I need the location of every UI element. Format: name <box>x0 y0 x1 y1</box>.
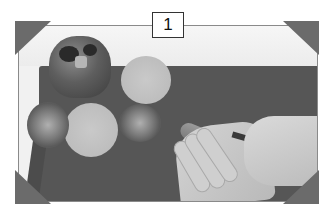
tomato-half <box>27 102 69 148</box>
orange-half <box>121 56 171 104</box>
pepper-cavity <box>83 44 97 56</box>
step-number-label: 1 <box>152 12 184 38</box>
photo-corner-bottom-left <box>15 170 51 204</box>
tomato-half <box>119 104 161 142</box>
photo-corner-bottom-right <box>283 170 319 204</box>
instruction-photo <box>18 25 318 202</box>
photo-corner-top-left <box>15 21 51 55</box>
bell-pepper-half <box>49 36 111 98</box>
pepper-stem <box>75 56 87 68</box>
photo-corner-top-right <box>283 21 319 55</box>
orange-half <box>64 103 118 157</box>
